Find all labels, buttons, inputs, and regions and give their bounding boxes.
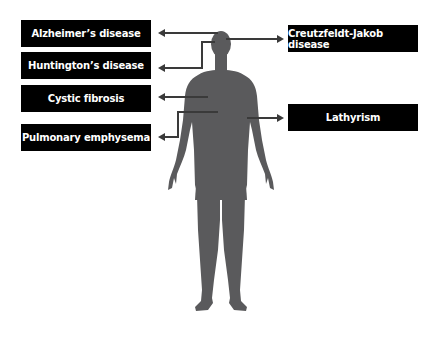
label-text: Pulmonary emphysema xyxy=(22,132,150,143)
label-creutzfeldt-jakob: Creutzfeldt-Jakob disease xyxy=(288,25,418,52)
connector-huntingtons xyxy=(162,42,215,68)
label-text: Creutzfeldt-Jakob disease xyxy=(288,28,418,50)
label-text: Alzheimer’s disease xyxy=(31,28,140,39)
arrowhead-left-icon xyxy=(158,93,165,101)
label-alzheimers: Alzheimer’s disease xyxy=(21,20,151,47)
arrowhead-left-icon xyxy=(158,64,165,72)
arrowhead-right-icon xyxy=(277,35,284,43)
label-lathyrism: Lathyrism xyxy=(288,104,418,131)
label-cystic-fibrosis: Cystic fibrosis xyxy=(21,85,151,112)
label-text: Lathyrism xyxy=(326,112,380,123)
human-silhouette-icon xyxy=(168,31,274,311)
label-text: Huntington’s disease xyxy=(28,60,144,71)
arrowhead-left-icon xyxy=(158,133,165,141)
label-text: Cystic fibrosis xyxy=(48,93,125,104)
label-pulmonary-emphysema: Pulmonary emphysema xyxy=(21,124,151,151)
label-huntingtons: Huntington’s disease xyxy=(21,52,151,79)
arrowhead-left-icon xyxy=(158,29,165,37)
arrowhead-right-icon xyxy=(277,114,284,122)
